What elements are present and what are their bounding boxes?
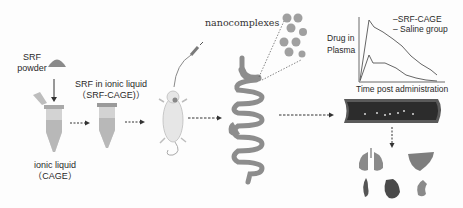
spleen-icon (363, 178, 368, 197)
chart-ylabel-line1: Drug in (327, 32, 355, 44)
chart-ylabel: Drug in Plasma (327, 32, 355, 56)
syringe-icon (174, 42, 203, 87)
srf-in-ionic-liquid-label: SRF in ionic liquid （SRF-CAGE)） (67, 79, 155, 101)
legend-label-srf-cage: SRF-CAGE (398, 14, 442, 24)
srf-powder-label-line2: powder (12, 63, 52, 74)
srf-powder-label-line1: SRF (12, 52, 52, 63)
srf-powder-label: SRF powder (12, 52, 52, 74)
nanoparticles-icon (280, 14, 308, 58)
liver-icon (408, 152, 434, 171)
ionic-liquid-label: ionic liquid （CAGE） (24, 160, 86, 182)
chart-legend: –SRF-CAGE – Saline group (393, 14, 448, 34)
tube-ionic-liquid-icon (33, 92, 64, 152)
tube-srf-cage-icon (97, 103, 117, 148)
srf-in-il-line2: （SRF-CAGE)） (67, 90, 155, 101)
nanocomplexes-label: nanocomplexes (205, 17, 279, 28)
legend-item-srf-cage: –SRF-CAGE (393, 14, 448, 24)
blood-vessel-icon (344, 99, 441, 123)
intestine-icon (234, 58, 262, 182)
heart-icon (385, 179, 400, 198)
series-saline (360, 55, 437, 81)
kidney-icon (417, 180, 427, 196)
srf-in-il-line1: SRF in ionic liquid (67, 79, 155, 90)
mouse-icon (159, 91, 187, 155)
ionic-liquid-line1: ionic liquid (24, 160, 86, 171)
lungs-icon (359, 148, 383, 171)
chart-xlabel: Time post administration (356, 84, 448, 95)
legend-label-saline: Saline group (400, 24, 448, 34)
diagram-canvas: SRF powder SRF in ionic liquid （SRF-CAGE… (0, 0, 463, 208)
chart-ylabel-line2: Plasma (327, 44, 355, 56)
legend-item-saline: – Saline group (393, 24, 448, 34)
ionic-liquid-line2: （CAGE） (24, 171, 86, 182)
